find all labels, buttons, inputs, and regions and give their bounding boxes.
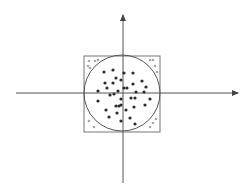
inside-point (143, 103, 146, 106)
inside-point (103, 81, 106, 84)
inside-point (111, 81, 114, 84)
inside-point (119, 103, 122, 106)
outside-point (152, 59, 155, 62)
outside-point (156, 71, 159, 74)
outside-point (155, 118, 158, 121)
outside-point (87, 65, 90, 68)
inside-point (96, 89, 99, 92)
inside-point (119, 78, 122, 81)
inside-point (122, 71, 125, 74)
inside-point (105, 86, 108, 89)
inside-point (102, 70, 105, 73)
monte-carlo-diagram (0, 0, 249, 195)
inside-point (108, 93, 111, 96)
inside-point (119, 119, 122, 122)
inside-point (114, 104, 117, 107)
inside-point (122, 86, 125, 89)
inside-point (124, 108, 127, 111)
outside-point (89, 67, 92, 70)
inside-point (133, 122, 136, 125)
inside-point (115, 111, 118, 114)
inside-point (140, 79, 143, 82)
inside-points-group (96, 68, 151, 125)
inside-point (111, 68, 114, 71)
outside-point (94, 60, 97, 63)
inside-point (131, 71, 134, 74)
inside-point (116, 89, 119, 92)
inside-point (142, 90, 145, 93)
inside-point (144, 85, 147, 88)
outside-point (149, 126, 152, 129)
inside-point (119, 97, 122, 100)
inside-point (129, 96, 132, 99)
outside-point (88, 60, 91, 63)
inside-point (96, 99, 99, 102)
inside-point (134, 90, 137, 93)
inside-point (114, 76, 117, 79)
inside-point (125, 86, 128, 89)
inside-point (148, 97, 151, 100)
outside-point (97, 59, 100, 62)
inside-point (131, 82, 134, 85)
diagram-canvas (0, 0, 249, 195)
outside-point (149, 59, 152, 62)
inside-point (132, 105, 135, 108)
inside-point (128, 116, 131, 119)
inside-point (107, 115, 110, 118)
outside-point (88, 120, 91, 123)
inside-point (112, 92, 115, 95)
outside-point (152, 122, 155, 125)
outside-point (154, 65, 157, 68)
inside-point (133, 96, 136, 99)
outside-point (93, 126, 96, 129)
inside-point (104, 108, 107, 111)
